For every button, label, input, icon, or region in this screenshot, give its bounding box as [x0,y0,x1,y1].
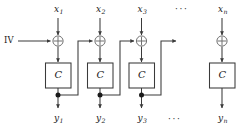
output-label-2-sub: 2 [101,117,105,124]
xor-gate-1 [53,36,63,46]
iv-label: IV [4,36,14,45]
input-label-3: x3 [138,5,147,14]
diagram-canvas: IV x1 x2 x3 ··· xn C C C C y1 y2 y3 ··· … [0,0,248,130]
input-label-3-base: x [138,4,143,14]
input-label-2: x2 [96,5,105,14]
input-label-n-sub: n [223,8,227,15]
output-label-n-sub: n [223,117,227,124]
output-label-2: y2 [96,114,105,123]
xor-gate-n [217,36,227,46]
cipher-label-n: C [219,70,227,80]
input-label-1: x1 [54,5,63,14]
ellipsis-top: ··· [175,5,188,14]
output-label-3-base: y [138,113,143,123]
input-label-2-sub: 2 [101,8,105,15]
xor-gate-3 [136,36,146,46]
output-label-n: yn [218,114,227,123]
input-label-3-sub: 3 [143,8,147,15]
output-label-3: y3 [138,114,147,123]
cipher-label-2: C [97,70,105,80]
ellipsis-bottom: ··· [168,115,181,124]
output-label-1-sub: 1 [59,117,63,124]
cipher-label-1: C [55,70,63,80]
feedback-tap-dot-2 [98,93,103,98]
output-label-3-sub: 3 [143,117,147,124]
xor-gate-2 [95,36,105,46]
cipher-label-3: C [138,70,146,80]
input-label-1-sub: 1 [59,8,63,15]
diagram-graphics [0,0,248,130]
output-label-1: y1 [54,114,63,123]
input-label-n: xn [218,5,227,14]
feedback-tap-dot-1 [56,93,61,98]
feedback-tap-dot-3 [139,93,144,98]
